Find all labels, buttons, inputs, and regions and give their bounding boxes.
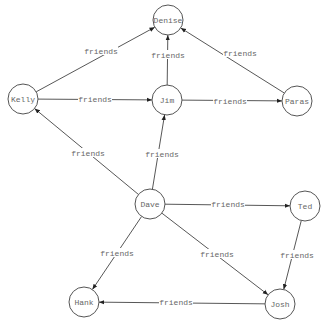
edge-dave-to-hank: friends — [92, 216, 141, 289]
node-jim: Jim — [152, 85, 182, 115]
edge-label: friends — [145, 150, 179, 159]
edge-ted-to-josh: friends — [280, 221, 314, 290]
edge-label: friends — [159, 298, 193, 307]
node-kelly: Kelly — [8, 84, 38, 114]
edge-dave-to-ted: friends — [165, 199, 290, 209]
edge-label: friends — [84, 47, 118, 56]
edge-dave-to-jim: friends — [145, 115, 179, 189]
edges-layer: friendsfriendsfriendsfriendsfriendsfrien… — [35, 27, 314, 306]
edge-kelly-to-denise: friends — [36, 27, 155, 92]
edge-josh-to-hank: friends — [99, 297, 265, 307]
node-label: Paras — [285, 97, 309, 106]
node-paras: Paras — [282, 86, 312, 116]
node-dave: Dave — [135, 189, 165, 219]
node-denise: Denise — [153, 5, 183, 35]
node-label: Josh — [270, 300, 289, 309]
node-label: Hank — [74, 298, 93, 307]
edge-label: friends — [280, 251, 314, 260]
edge-label: friends — [151, 51, 185, 60]
edge-kelly-to-jim: friends — [38, 94, 152, 104]
edge-line — [167, 35, 168, 85]
node-label: Dave — [140, 200, 159, 209]
edge-line — [36, 27, 155, 92]
node-label: Denise — [154, 16, 183, 25]
edge-label: friends — [213, 97, 247, 106]
edge-jim-to-paras: friends — [182, 96, 282, 106]
edge-dave-to-kelly: friends — [35, 109, 139, 195]
edge-dave-to-josh: friends — [162, 213, 268, 295]
node-label: Kelly — [11, 95, 35, 104]
node-josh: Josh — [265, 289, 295, 319]
edge-label: friends — [211, 200, 245, 209]
edge-paras-to-denise: friends — [181, 28, 285, 93]
friends-graph: friendsfriendsfriendsfriendsfriendsfrien… — [0, 0, 329, 323]
edge-line — [181, 28, 285, 93]
edge-label: friends — [223, 49, 257, 58]
node-label: Ted — [298, 202, 313, 211]
edge-label: friends — [71, 149, 105, 158]
edge-label: friends — [100, 249, 134, 258]
edge-label: friends — [200, 250, 234, 259]
node-ted: Ted — [290, 191, 320, 221]
edge-label: friends — [78, 95, 112, 104]
edge-jim-to-denise: friends — [151, 35, 185, 85]
node-label: Jim — [160, 96, 175, 105]
node-hank: Hank — [69, 287, 99, 317]
